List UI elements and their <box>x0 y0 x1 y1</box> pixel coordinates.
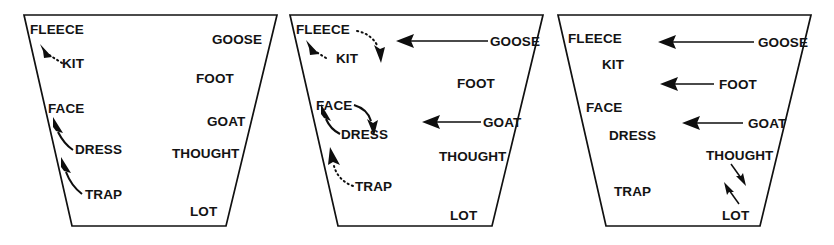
label-goat: GOAT <box>483 115 522 130</box>
label-trap: TRAP <box>355 179 392 194</box>
label-face: FACE <box>316 98 352 113</box>
label-goose: GOOSE <box>758 35 808 50</box>
label-goose: GOOSE <box>212 32 262 47</box>
label-dress: DRESS <box>609 128 656 143</box>
label-fleece: FLEECE <box>30 22 84 37</box>
label-trap: TRAP <box>85 187 122 202</box>
label-trap: TRAP <box>614 184 651 199</box>
label-thought: THOUGHT <box>706 148 774 163</box>
label-foot: FOOT <box>457 76 496 91</box>
label-kit: KIT <box>602 57 625 72</box>
panel-1: FLEECE KIT FACE DRESS TRAP GOOSE FOOT GO… <box>0 0 278 245</box>
label-dress: DRESS <box>341 127 388 142</box>
label-thought: THOUGHT <box>439 149 507 164</box>
label-goat: GOAT <box>748 116 787 131</box>
label-face: FACE <box>48 101 84 116</box>
label-lot: LOT <box>722 208 750 223</box>
label-lot: LOT <box>190 204 218 219</box>
label-fleece: FLEECE <box>568 31 622 46</box>
label-lot: LOT <box>450 208 478 223</box>
label-fleece: FLEECE <box>296 22 350 37</box>
panel-2: FLEECE KIT FACE DRESS TRAP GOOSE FOOT GO… <box>278 0 556 245</box>
label-kit: KIT <box>336 51 359 66</box>
label-goose: GOOSE <box>490 34 540 49</box>
label-kit: KIT <box>62 56 85 71</box>
vowel-trapezoid-figure: FLEECE KIT FACE DRESS TRAP GOOSE FOOT GO… <box>0 0 834 245</box>
label-thought: THOUGHT <box>172 146 240 161</box>
label-foot: FOOT <box>196 71 235 86</box>
label-face: FACE <box>586 100 622 115</box>
label-dress: DRESS <box>75 142 122 157</box>
label-goat: GOAT <box>207 114 246 129</box>
panel-3: FLEECE KIT FACE DRESS TRAP GOOSE FOOT GO… <box>556 0 834 245</box>
label-foot: FOOT <box>719 77 758 92</box>
